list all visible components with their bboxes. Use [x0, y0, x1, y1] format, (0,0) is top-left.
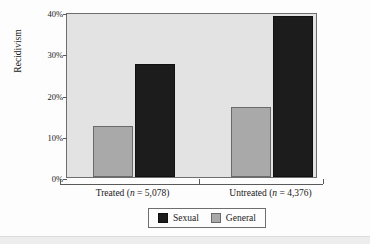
bar-general-0	[93, 126, 133, 177]
x-axis-tick-mark	[199, 179, 200, 184]
y-axis-title: Recidivism	[13, 0, 23, 111]
x-axis-category-label: Untreated (n = 4,376)	[191, 188, 351, 198]
y-axis-tick-mark	[63, 179, 67, 180]
legend-entry-sexual: Sexual	[158, 213, 199, 223]
legend-label: Sexual	[173, 213, 199, 223]
y-axis-tick-label: 40%	[44, 10, 63, 19]
legend-entry-general: General	[211, 213, 256, 223]
bar-sexual-0	[135, 64, 175, 177]
legend-swatch-sexual-icon	[158, 213, 168, 223]
y-axis-tick-label: 30%	[44, 51, 63, 60]
y-axis-tick-label: 10%	[44, 134, 63, 143]
y-axis-tick-mark	[63, 14, 67, 15]
plot-area: 0%10%20%30%40%	[66, 13, 317, 178]
y-axis-tick-mark	[63, 138, 67, 139]
legend-label: General	[226, 213, 256, 223]
y-axis-tick-mark	[63, 55, 67, 56]
page-bottom-band	[0, 236, 370, 244]
x-axis-tick-mark	[60, 179, 61, 184]
x-axis-category-label: Treated (n = 5,078)	[53, 188, 213, 198]
bar-sexual-1	[273, 16, 313, 177]
y-axis-tick-label: 20%	[44, 93, 63, 102]
x-axis-tick-mark	[323, 179, 324, 184]
bar-general-1	[231, 107, 271, 177]
legend-swatch-general-icon	[211, 213, 221, 223]
chart-legend: SexualGeneral	[148, 208, 266, 228]
x-axis-line	[60, 184, 323, 185]
y-axis-tick-mark	[63, 97, 67, 98]
